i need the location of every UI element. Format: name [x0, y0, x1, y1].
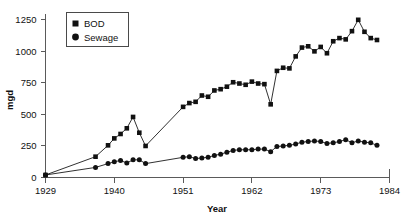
- data-point: [312, 138, 317, 143]
- data-point: [112, 136, 117, 141]
- data-point: [312, 49, 317, 54]
- data-point: [224, 150, 229, 155]
- data-point: [118, 158, 123, 163]
- data-point: [199, 155, 204, 160]
- data-point: [343, 37, 348, 42]
- data-point: [268, 102, 273, 107]
- data-point: [274, 144, 279, 149]
- data-point: [375, 38, 380, 43]
- x-tick-marks: [46, 178, 390, 183]
- data-point: [187, 154, 192, 159]
- x-tick-label: 1984: [379, 185, 400, 196]
- data-point: [187, 101, 192, 106]
- data-point: [131, 157, 136, 162]
- data-point: [137, 157, 142, 162]
- y-tick-label: 500: [21, 109, 37, 120]
- data-point: [193, 156, 198, 161]
- data-point: [362, 140, 367, 145]
- data-point: [337, 139, 342, 144]
- data-point: [137, 130, 142, 135]
- data-point: [143, 161, 148, 166]
- data-point: [262, 147, 267, 152]
- data-point: [206, 155, 211, 160]
- x-tick-label: 1940: [104, 185, 125, 196]
- data-point: [293, 142, 298, 147]
- data-point: [331, 140, 336, 145]
- x-tick-label: 1973: [310, 185, 331, 196]
- legend-label-bod: BOD: [84, 18, 105, 29]
- data-point: [368, 140, 373, 145]
- data-point: [237, 81, 242, 86]
- data-point: [325, 51, 330, 56]
- data-point: [275, 69, 280, 74]
- data-point: [143, 144, 148, 149]
- x-tick-labels: 192919401951196219731984: [35, 185, 400, 196]
- data-point: [349, 140, 354, 145]
- chart-legend: BOD Sewage: [66, 12, 128, 46]
- data-point: [237, 147, 242, 152]
- data-point: [306, 139, 311, 144]
- data-point: [293, 54, 298, 59]
- data-point: [262, 82, 267, 87]
- data-point: [256, 81, 261, 86]
- data-point: [212, 153, 217, 158]
- data-point: [193, 100, 198, 105]
- data-point: [324, 141, 329, 146]
- chart-container: 025050075010001250 192919401951196219731…: [0, 0, 408, 217]
- data-point: [243, 82, 248, 87]
- data-point: [356, 138, 361, 143]
- y-axis-title: mgd: [4, 90, 15, 110]
- y-tick-label: 1250: [15, 14, 36, 25]
- data-point: [218, 152, 223, 157]
- data-point: [243, 147, 248, 152]
- y-tick-label: 250: [21, 140, 37, 151]
- data-point: [337, 36, 342, 41]
- data-point: [287, 143, 292, 148]
- data-point: [343, 137, 348, 142]
- data-point: [106, 161, 111, 166]
- data-point: [112, 159, 117, 164]
- data-point: [281, 143, 286, 148]
- data-point: [125, 126, 130, 131]
- data-point: [356, 18, 361, 23]
- data-point: [318, 139, 323, 144]
- data-point: [374, 143, 379, 148]
- data-point: [231, 148, 236, 153]
- x-axis-title: Year: [207, 203, 227, 214]
- legend-marker-sewage: [72, 34, 79, 41]
- data-point: [225, 84, 230, 89]
- data-point: [300, 45, 305, 50]
- legend-label-sewage: Sewage: [84, 32, 118, 43]
- data-point: [212, 88, 217, 93]
- data-point: [306, 44, 311, 49]
- data-point: [318, 45, 323, 50]
- data-point: [106, 143, 111, 148]
- x-tick-label: 1929: [35, 185, 56, 196]
- legend-marker-bod: [73, 21, 79, 27]
- data-point: [181, 105, 186, 110]
- bod-sewage-line-chart: 025050075010001250 192919401951196219731…: [0, 0, 408, 217]
- data-point: [93, 165, 98, 170]
- data-point: [93, 154, 98, 159]
- y-tick-marks: [41, 20, 46, 178]
- data-point: [206, 94, 211, 99]
- data-point: [200, 93, 205, 98]
- y-tick-labels: 025050075010001250: [15, 14, 36, 183]
- data-point: [268, 149, 273, 154]
- data-point: [256, 147, 261, 152]
- y-tick-label: 0: [31, 172, 36, 183]
- data-point: [43, 172, 48, 177]
- data-point: [281, 65, 286, 70]
- data-point: [218, 87, 223, 92]
- data-point: [124, 160, 129, 165]
- data-point: [231, 80, 236, 85]
- data-point: [350, 29, 355, 34]
- data-point: [368, 36, 373, 41]
- data-point: [131, 115, 136, 120]
- y-tick-label: 750: [21, 77, 37, 88]
- data-point: [250, 79, 255, 84]
- data-point: [249, 147, 254, 152]
- x-tick-label: 1951: [173, 185, 194, 196]
- data-point: [362, 29, 367, 34]
- data-point: [118, 132, 123, 137]
